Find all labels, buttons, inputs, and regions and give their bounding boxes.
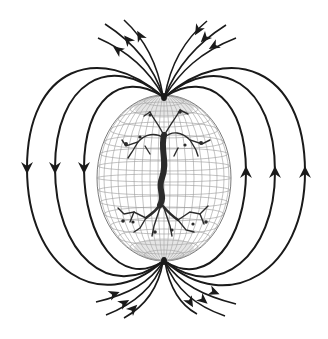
diagram-canvas <box>0 0 328 339</box>
magnetic-field-diagram: Magnetic field lines around a globe with… <box>0 0 328 339</box>
open-line-top-right-1 <box>165 21 207 96</box>
arrow-down-left-icon <box>197 31 212 46</box>
south-pole <box>161 257 167 265</box>
north-pole <box>161 93 167 101</box>
arrow-up-left-icon <box>120 32 135 47</box>
